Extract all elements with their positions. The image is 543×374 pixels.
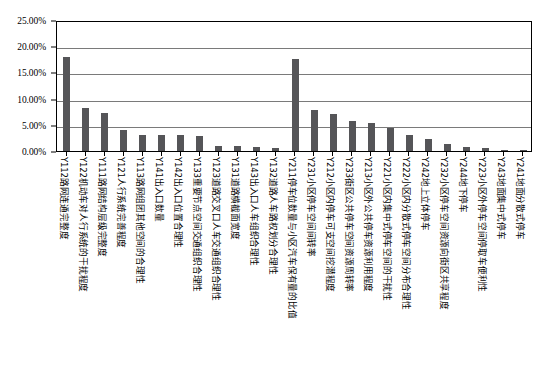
x-tick-label-text: Y222小区内分散式停车空间分布合理性 <box>399 157 412 367</box>
x-tick-mark <box>351 152 352 156</box>
x-tick-label: Y221小区内集中式停车空间的干扰性 <box>379 157 393 367</box>
bar <box>349 121 356 151</box>
x-tick-mark <box>180 152 181 156</box>
x-tick-mark <box>446 152 447 156</box>
x-tick-label: Y142出入口位置合理性 <box>170 157 184 367</box>
y-tick-label: 5.00% <box>22 121 46 131</box>
bar <box>292 59 299 151</box>
x-tick-label-text: Y231小区停车空间间转率 <box>304 157 317 367</box>
x-tick-label: Y232小区停车空间资源向街区共享程度 <box>436 157 450 367</box>
x-tick-label-text: Y123道路交叉口人车交通组织合理性 <box>209 157 222 367</box>
y-tick-label: 25.00% <box>17 16 46 26</box>
bar <box>139 135 146 151</box>
bar <box>520 150 527 151</box>
x-tick-label: Y111路网结构层级完整度 <box>94 157 108 367</box>
x-tick-label-text: Y141出入口数量 <box>152 157 165 367</box>
x-tick-label: Y132道路人车路权划分合理性 <box>265 157 279 367</box>
x-tick-label-text: Y131道路横截面宽度 <box>228 157 241 367</box>
x-tick-mark <box>123 152 124 156</box>
bar <box>177 135 184 151</box>
bar <box>425 139 432 151</box>
x-tick-label-text: Y221小区内集中式停车空间的干扰性 <box>380 157 393 367</box>
bar <box>215 146 222 151</box>
bar <box>463 147 470 151</box>
bar <box>311 110 318 151</box>
y-tick-label: 20.00% <box>17 42 46 52</box>
x-tick-label: Y123道路交叉口人车交通组织合理性 <box>208 157 222 367</box>
x-tick-mark <box>256 152 257 156</box>
x-tick-label-text: Y213小区外公共停车资源利用程度 <box>361 157 374 367</box>
x-tick-mark <box>522 152 523 156</box>
x-tick-label: Y112路网连通完整度 <box>56 157 70 367</box>
bar <box>196 136 203 151</box>
x-tick-mark <box>237 152 238 156</box>
bar-chart: 25.00%20.00%15.00%10.00%5.00%0.00% Y112路… <box>0 0 543 374</box>
x-tick-label-text: Y243地面集中式停车 <box>494 157 507 367</box>
x-tick-mark <box>142 152 143 156</box>
x-tick-label: Y243地面集中式停车 <box>493 157 507 367</box>
x-tick-mark <box>332 152 333 156</box>
bar <box>501 150 508 151</box>
x-tick-mark <box>408 152 409 156</box>
x-tick-mark <box>465 152 466 156</box>
y-axis: 25.00%20.00%15.00%10.00%5.00%0.00% <box>0 0 56 374</box>
bar <box>101 113 108 151</box>
x-tick-label-text: Y233街区公共停车空间资源周转率 <box>342 157 355 367</box>
x-tick-label: Y244地下停车 <box>455 157 469 367</box>
x-tick-label: Y222小区内分散式停车空间分布合理性 <box>398 157 412 367</box>
x-tick-mark <box>218 152 219 156</box>
x-tick-label-text: Y244地下停车 <box>456 157 469 367</box>
x-tick-mark <box>484 152 485 156</box>
bar <box>272 148 279 151</box>
x-tick-label-text: Y111路网结构层级完整度 <box>95 157 108 367</box>
x-tick-mark <box>161 152 162 156</box>
bar <box>406 135 413 151</box>
bar <box>444 144 451 151</box>
x-tick-mark <box>503 152 504 156</box>
x-tick-mark <box>66 152 67 156</box>
y-tick-label: 10.00% <box>17 95 46 105</box>
x-tick-label-text: Y212小区内停车可支空间挖潜程度 <box>323 157 336 367</box>
x-tick-mark <box>313 152 314 156</box>
x-tick-label: Y141出入口数量 <box>151 157 165 367</box>
plot-area <box>56 21 532 152</box>
bars-layer <box>57 22 531 151</box>
x-tick-label-text: Y211停车位数量与小区汽车保有量的比值 <box>285 157 298 367</box>
x-tick-mark <box>427 152 428 156</box>
bar <box>368 123 375 151</box>
x-tick-label: Y131道路横截面宽度 <box>227 157 241 367</box>
x-tick-label: Y211停车位数量与小区汽车保有量的比值 <box>284 157 298 367</box>
x-tick-label-text: Y122机动车对人行系统的干扰程度 <box>76 157 89 367</box>
bar <box>330 114 337 151</box>
x-tick-label: Y122机动车对人行系统的干扰程度 <box>75 157 89 367</box>
x-tick-label: Y113路网组团其他空间的合理性 <box>132 157 146 367</box>
x-tick-label-text: Y113路网组团其他空间的合理性 <box>133 157 146 367</box>
bar <box>482 148 489 151</box>
x-tick-label: Y241地面分散式停车 <box>512 157 526 367</box>
bar <box>82 108 89 151</box>
x-tick-label-text: Y241地面分散式停车 <box>513 157 526 367</box>
bar <box>120 130 127 151</box>
x-tick-label: Y212小区内停车可支空间挖潜程度 <box>322 157 336 367</box>
x-tick-label-text: Y232小区停车空间资源向街区共享程度 <box>437 157 450 367</box>
x-tick-label-text: Y112路网连通完整度 <box>57 157 70 367</box>
y-tick-label: 0.00% <box>22 147 46 157</box>
x-tick-label-text: Y133重要节点空间交通组织合理性 <box>190 157 203 367</box>
x-tick-label-text: Y143出入口人车组织合理性 <box>247 157 260 367</box>
x-tick-label: Y213小区外公共停车资源利用程度 <box>360 157 374 367</box>
x-tick-label: Y121人行系统完善程度 <box>113 157 127 367</box>
x-tick-mark <box>294 152 295 156</box>
x-tick-mark <box>389 152 390 156</box>
x-tick-label: Y223小区外停车空间停取车便利性 <box>474 157 488 367</box>
x-axis-labels: Y112路网连通完整度Y122机动车对人行系统的干扰程度Y111路网结构层级完整… <box>56 152 532 374</box>
bar <box>253 147 260 151</box>
x-tick-label-text: Y223小区外停车空间停取车便利性 <box>475 157 488 367</box>
bar <box>234 146 241 151</box>
x-tick-mark <box>370 152 371 156</box>
x-tick-label-text: Y132道路人车路权划分合理性 <box>266 157 279 367</box>
x-tick-label: Y233街区公共停车空间资源周转率 <box>341 157 355 367</box>
x-tick-label-text: Y142出入口位置合理性 <box>171 157 184 367</box>
x-tick-label-text: Y121人行系统完善程度 <box>114 157 127 367</box>
x-tick-label-text: Y242地上立体停车 <box>418 157 431 367</box>
x-tick-mark <box>104 152 105 156</box>
